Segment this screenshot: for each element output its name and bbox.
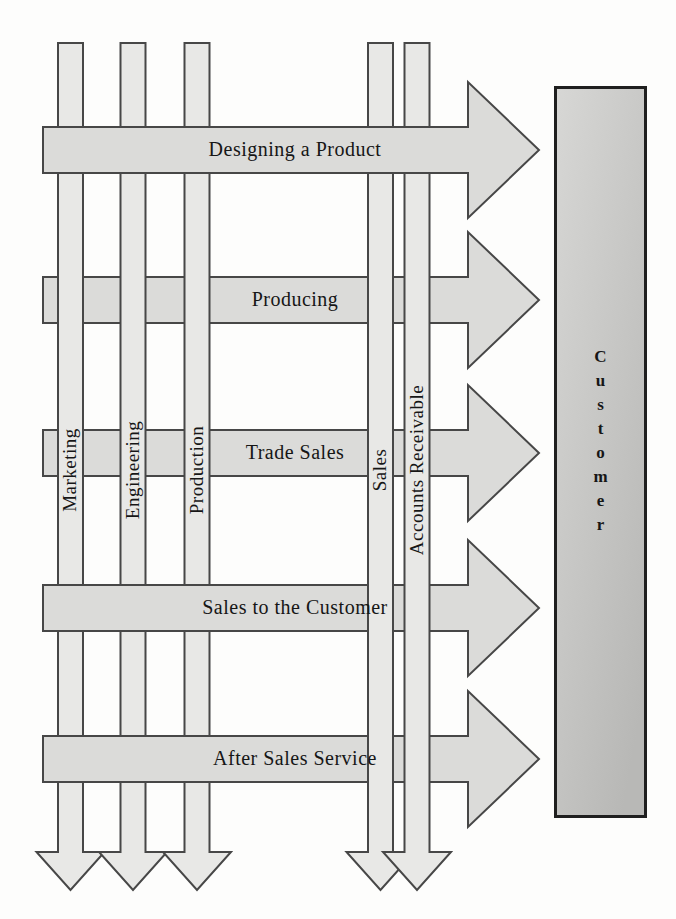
process-department-flow-diagram: Customer Designing a Product Producing T… bbox=[0, 0, 676, 919]
process-label-designing-a-product: Designing a Product bbox=[125, 138, 465, 161]
department-label-production: Production bbox=[186, 426, 208, 514]
process-label-after-sales-service: After Sales Service bbox=[125, 747, 465, 770]
process-label-sales-to-the-customer: Sales to the Customer bbox=[125, 596, 465, 619]
department-label-marketing: Marketing bbox=[59, 428, 81, 512]
customer-label: Customer bbox=[557, 345, 644, 537]
department-label-sales: Sales bbox=[369, 449, 391, 492]
customer-box: Customer bbox=[554, 86, 647, 818]
department-label-accounts-receivable: Accounts Receivable bbox=[406, 385, 428, 555]
process-label-producing: Producing bbox=[125, 288, 465, 311]
department-label-engineering: Engineering bbox=[122, 421, 144, 519]
